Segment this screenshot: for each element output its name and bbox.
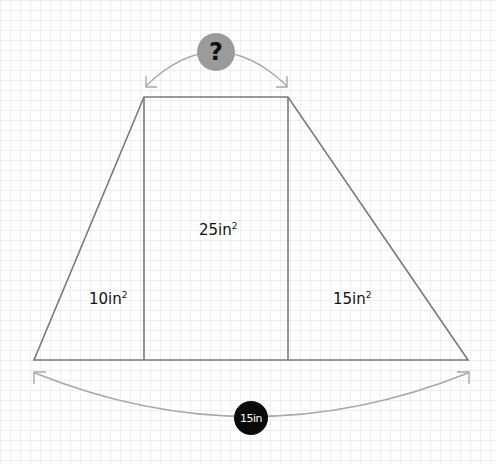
left-area-unit: in bbox=[108, 290, 122, 308]
right-area-unit: in bbox=[352, 290, 366, 308]
middle-area-value: 25 bbox=[199, 221, 218, 239]
unknown-top-width-badge: ? bbox=[197, 33, 235, 71]
left-area-value: 10 bbox=[89, 290, 108, 308]
question-mark-icon: ? bbox=[209, 38, 223, 66]
left-area-exponent: 2 bbox=[122, 290, 128, 300]
middle-area-exponent: 2 bbox=[232, 221, 238, 231]
diagram-canvas: 10in2 25in2 15in2 ? 15in bbox=[0, 0, 496, 464]
middle-rectangle-area-label: 25in2 bbox=[199, 221, 238, 239]
left-triangle-area-label: 10in2 bbox=[89, 290, 128, 308]
bottom-length-badge: 15in bbox=[234, 401, 268, 435]
right-triangle-area-label: 15in2 bbox=[333, 290, 372, 308]
bottom-length-label: 15in bbox=[240, 412, 262, 425]
right-area-value: 15 bbox=[333, 290, 352, 308]
diagram-svg bbox=[0, 0, 496, 464]
right-area-exponent: 2 bbox=[366, 290, 372, 300]
middle-area-unit: in bbox=[218, 221, 232, 239]
trapezoid-outline bbox=[34, 97, 468, 360]
